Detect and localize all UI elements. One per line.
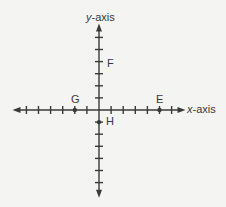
y-axis-label: y-axis: [86, 12, 115, 23]
y-axis-down-arrow-icon: [96, 190, 102, 198]
y-axis-suffix: -axis: [92, 11, 115, 23]
x-axis-left-arrow-icon: [13, 107, 21, 113]
point-label-e: E: [156, 94, 163, 105]
point-label-h: H: [106, 116, 114, 127]
point-e-dot: [157, 108, 161, 112]
x-axis-suffix: -axis: [193, 103, 216, 115]
x-axis-label: x-axis: [187, 104, 216, 115]
x-axis-right-arrow-icon: [177, 107, 185, 113]
point-label-g: G: [71, 94, 80, 105]
point-label-f: F: [107, 58, 114, 69]
point-h-dot: [97, 120, 101, 124]
y-axis-up-arrow-icon: [96, 24, 102, 32]
point-g-dot: [73, 108, 77, 112]
